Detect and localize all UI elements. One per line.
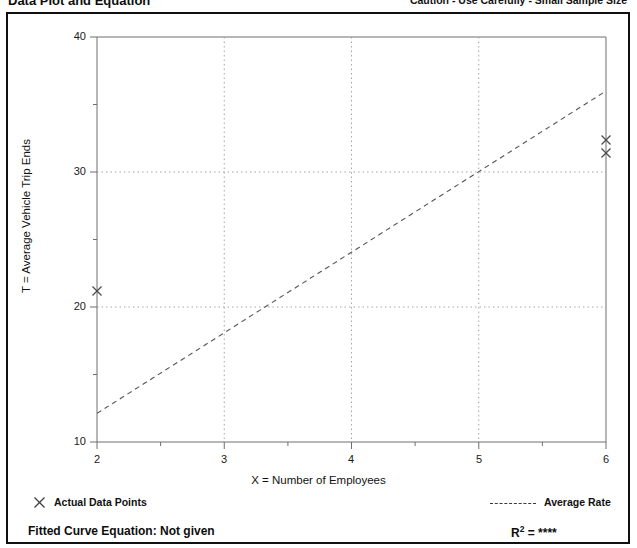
legend-label-average-rate: Average Rate: [544, 496, 611, 508]
r2-symbol: R: [511, 526, 520, 540]
x-tick-label-4: 4: [339, 453, 363, 465]
legend-dashed-line-icon: [490, 503, 536, 504]
r2-equals: =: [524, 526, 538, 540]
legend-label-data-points: Actual Data Points: [54, 496, 147, 508]
equation-row: Fitted Curve Equation: Not given R2 = **…: [0, 524, 637, 546]
y-tick-label-10: 10: [60, 435, 86, 447]
x-tick-label-3: 3: [212, 453, 236, 465]
caution-note: Caution - Use Carefully - Small Sample S…: [410, 0, 627, 6]
x-axis-title: X = Number of Employees: [0, 474, 637, 486]
r2-stars: ****: [538, 526, 557, 540]
y-axis-title: T = Average Vehicle Trip Ends: [20, 116, 32, 316]
fitted-curve-equation: Fitted Curve Equation: Not given: [28, 524, 215, 538]
page-title: Data Plot and Equation: [8, 0, 150, 8]
y-tick-label-40: 40: [60, 30, 86, 42]
x-tick-label-6: 6: [594, 453, 618, 465]
y-tick-label-20: 20: [60, 300, 86, 312]
x-tick-label-5: 5: [467, 453, 491, 465]
legend-x-marker-icon: [33, 496, 46, 509]
page-header: Data Plot and Equation Caution - Use Car…: [0, 0, 637, 12]
x-tick-label-2: 2: [85, 453, 109, 465]
r-squared-value: R2 = ****: [511, 524, 557, 540]
chart-legend: Actual Data Points Average Rate: [0, 494, 637, 516]
y-tick-label-30: 30: [60, 165, 86, 177]
